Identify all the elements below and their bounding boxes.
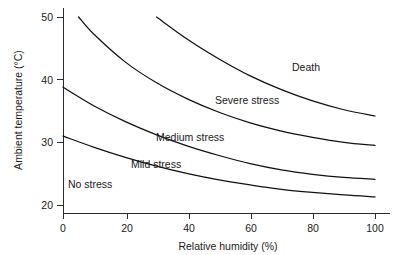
zone-label-mild-stress: Mild stress: [131, 158, 181, 170]
x-tick-label: 20: [121, 222, 133, 234]
zone-label-no-stress: No stress: [68, 178, 112, 190]
zone-label-death: Death: [292, 61, 320, 73]
chart-container: 50 40 30 20 0 20 40 60 80 100 Ambient te…: [0, 0, 396, 255]
heat-stress-chart: 50 40 30 20 0 20 40 60 80 100 Ambient te…: [0, 0, 396, 255]
y-axis-title: Ambient temperature (°C): [12, 50, 24, 170]
y-axis-ticks: 50 40 30 20: [41, 11, 63, 211]
curve-severe-stress-threshold: [79, 17, 375, 145]
y-tick-label: 30: [41, 136, 53, 148]
y-tick-label: 40: [41, 74, 53, 86]
x-tick-label: 40: [183, 222, 195, 234]
y-tick-label: 20: [41, 199, 53, 211]
x-tick-label: 100: [366, 222, 384, 234]
x-tick-label: 60: [245, 222, 257, 234]
zone-label-medium-stress: Medium stress: [156, 131, 224, 143]
x-tick-label: 0: [60, 222, 66, 234]
y-tick-label: 50: [41, 11, 53, 23]
threshold-curves: [63, 17, 375, 197]
x-axis-ticks: 0 20 40 60 80 100: [60, 213, 384, 234]
x-tick-label: 80: [307, 222, 319, 234]
x-axis-title: Relative humidity (%): [178, 240, 277, 252]
zone-label-severe-stress: Severe stress: [215, 94, 279, 106]
